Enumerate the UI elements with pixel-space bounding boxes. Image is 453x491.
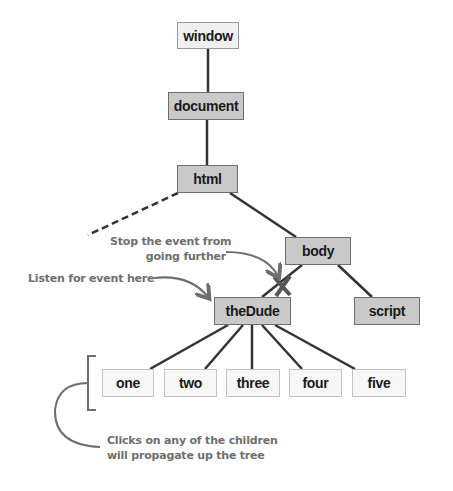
node-child-three: three [226,369,280,397]
node-child-one: one [102,369,154,397]
node-child-two: two [164,369,217,397]
edge-html-body [230,193,296,237]
node-script: script [354,297,420,325]
stop-annotation-line2: going further [110,249,226,264]
stop-annotation-line1: Stop the event from [110,234,226,249]
node-window: window [177,22,239,49]
stop-annotation: Stop the event from going further [110,234,226,264]
edge-html-head-dashed [88,193,178,235]
children-bracket-icon [88,356,96,410]
node-thedude: theDude [214,297,291,325]
clicks-annotation-line2: will propagate up the tree [107,448,278,463]
node-body: body [285,237,351,265]
dom-tree-diagram: window document html body theDude script… [0,0,453,491]
clicks-annotation: Clicks on any of the children will propa… [107,433,278,463]
stop-arrow-icon [226,252,278,276]
node-document: document [168,92,244,120]
edge-body-script [338,265,372,297]
bracket-curve-icon [55,383,100,447]
edge-body-thedude [262,265,302,297]
listen-annotation: Listen for event here [28,271,154,286]
node-child-five: five [352,369,406,397]
clicks-annotation-line1: Clicks on any of the children [107,433,278,448]
node-html: html [177,165,238,193]
listen-arrow-icon [154,277,208,297]
node-child-four: four [289,369,342,397]
